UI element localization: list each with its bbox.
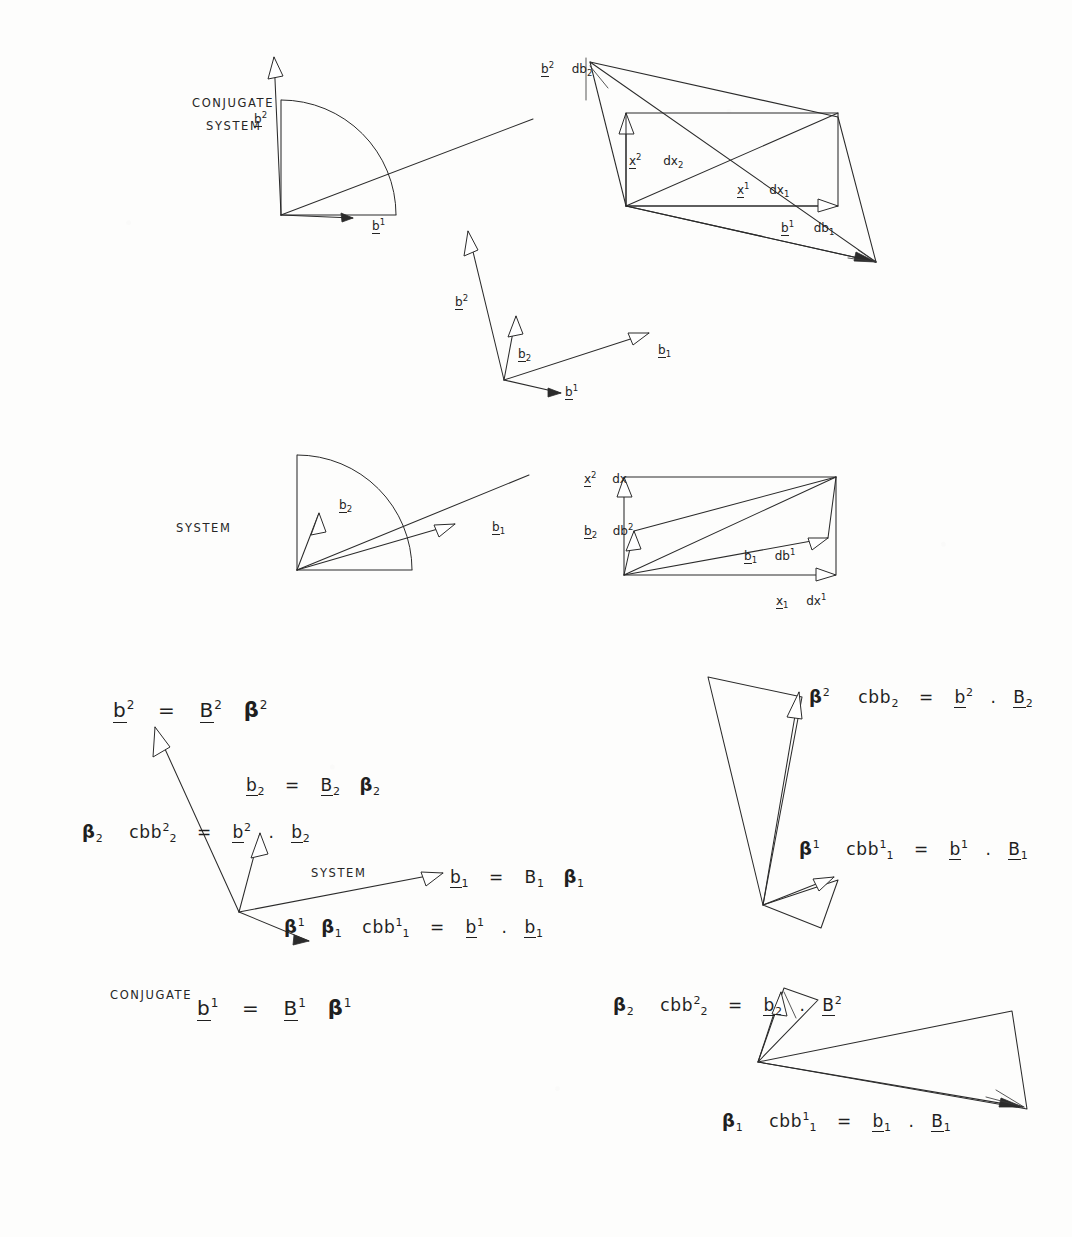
eq-sub-1: 1 xyxy=(537,877,544,890)
eq-cbb-glyph: cbb xyxy=(846,839,879,859)
label-b-db-2-topright: b2 db2 xyxy=(541,60,592,78)
label-sub-1: 1 xyxy=(752,555,757,565)
label-b-glyph: b xyxy=(339,498,347,513)
eq-beta-glyph: β xyxy=(359,774,373,795)
eq-sub-1: 1 xyxy=(1021,849,1028,862)
label-sup-1: 1 xyxy=(821,592,826,602)
eq-cbb-glyph: cbb xyxy=(129,822,162,842)
label-b-db-1-row2right: b1 db1 xyxy=(744,547,795,565)
fig-middle-basis-vectors xyxy=(464,231,649,397)
eq-dot: . xyxy=(799,995,804,1015)
label-sub-1: 1 xyxy=(829,227,834,237)
eq-sup-2: 2 xyxy=(214,698,222,712)
eq-cbb-glyph: cbb xyxy=(858,687,891,707)
label-b-glyph: b xyxy=(565,385,573,400)
eq-sub-2: 2 xyxy=(96,832,103,845)
eq-sub-1: 1 xyxy=(884,1121,891,1134)
label-b-co-1-row2left: b1 xyxy=(492,520,505,536)
eq-capB-glyph: B xyxy=(321,775,333,796)
label-x-dx-2-row2right: x2 dx xyxy=(584,470,627,486)
eq-sub-2: 2 xyxy=(775,1005,782,1018)
eq-b-glyph: b xyxy=(872,1111,884,1132)
label-b-glyph: b xyxy=(658,343,666,358)
eq-beta-glyph: β xyxy=(613,994,627,1015)
eq-equals: = xyxy=(242,996,260,1020)
label-b-glyph: b xyxy=(584,524,592,539)
eq-beta-glyph: β xyxy=(244,698,260,722)
label-sup-2: 2 xyxy=(636,152,641,162)
eq-b-glyph: b xyxy=(450,867,462,888)
label-b-glyph: b xyxy=(372,219,380,234)
label-sub-2: 2 xyxy=(347,504,352,514)
label-dx-glyph: dx xyxy=(806,594,821,608)
equation-b-co-1: b1 = B1 β1 xyxy=(450,866,584,890)
eq-sub-1: 1 xyxy=(809,1121,816,1134)
eq-sub-2: 2 xyxy=(1026,697,1033,710)
label-db-glyph: db xyxy=(572,62,587,76)
eq-beta-glyph: β xyxy=(82,821,96,842)
eq-sup-2: 2 xyxy=(823,686,830,699)
eq-sub-2: 2 xyxy=(333,785,340,798)
equation-b-co-2: b2 = B2 β2 xyxy=(246,774,380,798)
label-b-glyph: b xyxy=(744,549,752,564)
eq-dot: . xyxy=(502,917,507,937)
label-db-glyph: db xyxy=(775,549,790,563)
eq-equals: = xyxy=(914,839,929,859)
caption-conjugate-lower: CONJUGATE xyxy=(110,988,192,1002)
fig-lower-right-upper-triangle xyxy=(708,677,838,928)
eq-cbb-glyph: cbb xyxy=(362,917,395,937)
label-b-glyph: b xyxy=(492,520,500,535)
eq-b-glyph: b xyxy=(197,996,211,1021)
label-sub-1: 1 xyxy=(500,526,505,536)
label-sub-1: 1 xyxy=(783,600,788,610)
eq-sup-2: 2 xyxy=(127,698,135,712)
diagram-linework xyxy=(0,0,1072,1237)
eq-sup-2: 2 xyxy=(835,994,842,1007)
equation-right-beta2: β2 cbb2 = b2 . B2 xyxy=(809,686,1033,710)
eq-sup-1: 1 xyxy=(298,996,306,1010)
eq-cbb-glyph: cbb xyxy=(660,995,693,1015)
label-x-dx-1-row2right: x1 dx1 xyxy=(776,592,826,610)
eq-equals: = xyxy=(919,687,934,707)
label-b-glyph: b xyxy=(518,347,526,362)
label-sup-1: 1 xyxy=(380,217,385,227)
eq-sup-2: 2 xyxy=(244,821,251,834)
eq-b-glyph: b xyxy=(524,917,536,938)
equation-right-beta1: β1 cbb11 = b1 . B1 xyxy=(799,838,1028,862)
eq-sup-1: 1 xyxy=(344,996,352,1010)
label-b-co-2-middle: b2 xyxy=(518,347,531,363)
eq-beta-glyph: β xyxy=(328,996,344,1020)
equation-beta2-cbb: β2 cbb22 = b2 . b2 xyxy=(82,821,310,845)
eq-capB-glyph: B xyxy=(200,698,215,723)
label-b-db-1-topright: b1 db1 xyxy=(781,219,834,237)
label-sup-2: 2 xyxy=(463,293,468,303)
eq-sub-1: 1 xyxy=(886,849,893,862)
eq-beta-glyph: β xyxy=(809,686,823,707)
eq-sub-2: 2 xyxy=(303,832,310,845)
equation-beta1-cbb: β1 β1 cbb11 = b1 . b1 xyxy=(284,916,543,940)
eq-capB-glyph: B xyxy=(931,1111,943,1132)
equation-b-contra-1: b1 = B1 β1 xyxy=(197,996,351,1020)
label-b-glyph: b xyxy=(781,221,789,236)
label-sup-2: 2 xyxy=(628,522,633,532)
eq-sup-2: 2 xyxy=(966,686,973,699)
label-sup-2: 2 xyxy=(549,60,554,70)
label-b-db-2-row2right: b2 db2 xyxy=(584,522,633,540)
eq-sub-2: 2 xyxy=(169,832,176,845)
label-dx-glyph: dx xyxy=(612,472,627,486)
eq-sub-1: 1 xyxy=(536,927,543,940)
eq-capB-glyph: B xyxy=(822,995,834,1016)
eq-b-glyph: b xyxy=(246,775,258,796)
label-db-glyph: db xyxy=(814,221,829,235)
caption-system-lower: SYSTEM xyxy=(311,866,366,880)
fig-row2-left-quadrant xyxy=(297,455,529,570)
eq-beta-glyph: β xyxy=(722,1110,736,1131)
eq-sup-1: 1 xyxy=(396,916,403,929)
eq-b-glyph: b xyxy=(232,822,244,843)
eq-sup-1: 1 xyxy=(477,916,484,929)
eq-equals: = xyxy=(430,917,445,937)
eq-b-glyph: b xyxy=(949,839,961,860)
eq-sub-2: 2 xyxy=(373,785,380,798)
eq-sub-1: 1 xyxy=(736,1121,743,1134)
label-b-glyph: b xyxy=(455,295,463,310)
